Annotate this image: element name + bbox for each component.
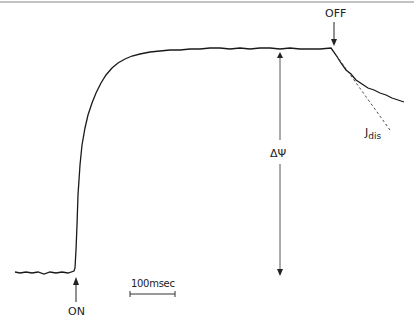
off-label: OFF [325,7,346,20]
jdis-label: Jdis [365,126,381,141]
on-arrow-head [73,277,79,285]
membrane-potential-figure: OFF ON ΔΨ 100msec Jdis [0,0,414,325]
delta-psi-arrowhead-up [277,52,283,58]
delta-psi-label: ΔΨ [270,147,286,160]
off-arrow-head [331,39,337,46]
scale-bar-label: 100msec [131,278,175,289]
delta-psi-arrowhead-down [277,269,283,276]
chart-canvas [0,0,414,325]
potential-trace [15,48,404,274]
jdis-subscript: dis [368,131,381,141]
on-label: ON [68,305,85,318]
